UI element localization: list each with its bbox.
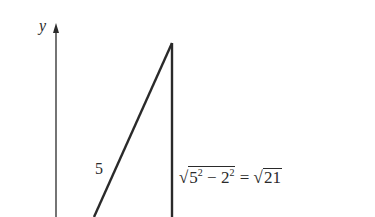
sqrt-icon-2: √ — [254, 168, 263, 187]
exponent-2: 2 — [229, 167, 234, 178]
hypotenuse-label: 5 — [95, 160, 103, 178]
y-axis-arrow-icon — [53, 23, 59, 33]
sqrt-icon: √ — [179, 168, 188, 187]
y-axis-label: y — [39, 17, 46, 35]
result: 21 — [263, 168, 282, 188]
vertical-side-label: √52 − 22 = √21 — [179, 166, 282, 188]
radicand: 52 − 22 — [188, 166, 235, 188]
base-1: 5 — [189, 168, 198, 187]
minus-sign: − — [203, 168, 221, 187]
hypotenuse — [94, 43, 172, 217]
equals-sign: = — [235, 168, 253, 187]
